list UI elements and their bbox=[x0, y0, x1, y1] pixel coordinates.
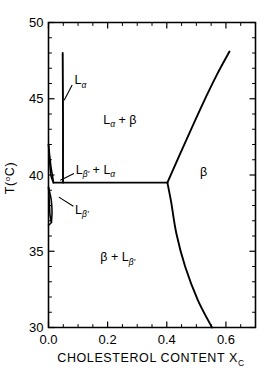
annotation-leader bbox=[64, 85, 72, 100]
x-tick-label: 0.4 bbox=[158, 332, 176, 347]
y-tick-label: 50 bbox=[29, 15, 43, 30]
region-label-l-alpha-plus-beta: Lα + β bbox=[103, 113, 136, 129]
phase-region-labels: LαLα + βLβ' + LαLβ'ββ + Lβ' bbox=[75, 73, 208, 266]
svg-text:CHOLESTEROL CONTENT XC: CHOLESTEROL CONTENT XC bbox=[57, 351, 244, 368]
phase-boundary-curves bbox=[49, 51, 230, 327]
y-tick-label: 45 bbox=[29, 91, 43, 106]
annotation-leader-lines bbox=[59, 85, 74, 206]
region-label-l-beta-prime: Lβ' bbox=[75, 203, 89, 219]
phase-boundary-curve bbox=[167, 51, 229, 182]
region-label-l-alpha: Lα bbox=[75, 73, 88, 89]
phase-boundary-curve bbox=[167, 183, 212, 328]
region-label-beta-plus-l-beta-prime: β + Lβ' bbox=[100, 250, 135, 266]
region-label-l-beta-prime-plus-l-alpha: Lβ' + Lα bbox=[76, 163, 117, 179]
y-tick-label: 35 bbox=[29, 244, 43, 259]
y-tick-label: 30 bbox=[29, 320, 43, 335]
x-tick-label: 0.6 bbox=[217, 332, 235, 347]
x-axis-title: CHOLESTEROL CONTENT XC bbox=[57, 351, 244, 368]
region-label-beta-region: β bbox=[200, 165, 207, 179]
phase-diagram-figure: 0.00.20.40.6 3035404550 LαLα + βLβ' + Lα… bbox=[0, 0, 273, 373]
y-axis-tick-labels: 3035404550 bbox=[29, 15, 43, 335]
svg-text:T(oC): T(oC) bbox=[3, 162, 18, 194]
y-axis-title: T(oC) bbox=[3, 162, 18, 194]
x-tick-label: 0.2 bbox=[99, 332, 117, 347]
y-tick-label: 40 bbox=[29, 168, 43, 183]
annotation-leader bbox=[59, 197, 73, 206]
x-axis-tick-labels: 0.00.20.40.6 bbox=[39, 332, 235, 347]
phase-diagram-svg: 0.00.20.40.6 3035404550 LαLα + βLβ' + Lα… bbox=[0, 0, 273, 373]
